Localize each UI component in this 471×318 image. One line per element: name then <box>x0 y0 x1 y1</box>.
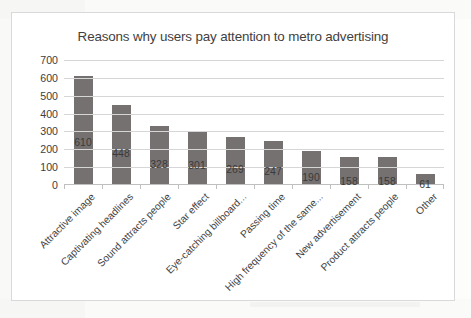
category-label: Captivating headlines <box>59 191 136 268</box>
page-bleed-ghost <box>250 302 420 307</box>
gridline <box>64 167 444 168</box>
category-label: Other <box>413 191 439 217</box>
chart-title: Reasons why users pay attention to metro… <box>12 29 454 44</box>
y-axis-tick-label: 300 <box>40 125 58 137</box>
bar-value-label: 247 <box>264 165 281 176</box>
chart-frame: Reasons why users pay attention to metro… <box>11 12 455 301</box>
y-axis-tick-label: 500 <box>40 90 58 102</box>
gridline <box>64 60 444 61</box>
bar-value-label: 610 <box>74 136 91 147</box>
gridline <box>64 131 444 132</box>
y-axis-tick-label: 100 <box>40 161 58 173</box>
y-axis-tick-label: 700 <box>40 54 58 66</box>
plot-area: 7006005004003002001000610448328301269247… <box>64 60 444 185</box>
y-axis-tick-label: 600 <box>40 72 58 84</box>
bar[interactable] <box>150 126 169 185</box>
bar[interactable] <box>226 137 245 185</box>
category-label: Sound attracts people <box>95 191 173 269</box>
gridline <box>64 114 444 115</box>
scanned-page: Reasons why users pay attention to metro… <box>0 0 471 318</box>
y-axis-tick-label: 0 <box>52 179 58 191</box>
gridline <box>64 96 444 97</box>
bar[interactable] <box>112 105 131 185</box>
bar-value-label: 190 <box>302 172 319 183</box>
bar[interactable] <box>264 141 283 185</box>
bar-value-label: 61 <box>419 178 431 189</box>
category-axis-labels: Attractive imageCaptivating headlinesSou… <box>64 189 444 299</box>
y-axis-tick-label: 400 <box>40 108 58 120</box>
bar-value-label: 158 <box>340 175 357 186</box>
category-label: New advertisement <box>294 191 363 260</box>
bar-value-label: 328 <box>150 158 167 169</box>
bar-value-label: 158 <box>378 175 395 186</box>
bar[interactable] <box>188 131 207 185</box>
bar-value-label: 301 <box>188 160 205 171</box>
category-label: Eye-catching billboard... <box>164 191 249 276</box>
y-axis-tick-label: 200 <box>40 143 58 155</box>
category-label: Product attracts people <box>319 191 401 273</box>
gridline <box>64 78 444 79</box>
bar-value-label: 269 <box>226 163 243 174</box>
bar-value-label: 448 <box>112 148 129 159</box>
